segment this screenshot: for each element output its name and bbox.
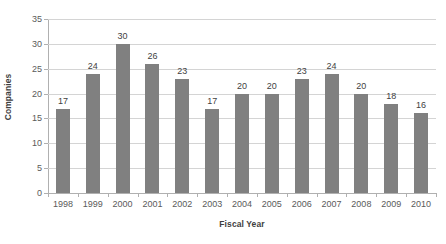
x-axis-tick-mark xyxy=(138,193,139,197)
bar xyxy=(175,79,189,193)
y-axis-tick-mark xyxy=(44,193,48,194)
bar-value-label: 24 xyxy=(327,62,337,71)
x-axis-tick-mark xyxy=(167,193,168,197)
x-axis-tick-mark xyxy=(257,193,258,197)
y-axis-tick-label: 25 xyxy=(32,64,42,73)
bar xyxy=(56,109,70,194)
plot-area: 17243026231720202324201816 xyxy=(48,19,436,193)
bar-group: 24 xyxy=(78,19,108,193)
bar-value-label: 26 xyxy=(147,52,157,61)
bar-chart: Companies 05101520253035 172430262317202… xyxy=(0,0,446,244)
bar-group: 24 xyxy=(317,19,347,193)
bar-group: 23 xyxy=(287,19,317,193)
bar-group: 18 xyxy=(376,19,406,193)
x-axis-tick-label: 1999 xyxy=(83,199,103,209)
x-axis-tick-mark xyxy=(48,193,49,197)
bar xyxy=(265,94,279,193)
y-axis-tick-label: 30 xyxy=(32,39,42,48)
bar-value-label: 17 xyxy=(58,97,68,106)
x-axis-tick-label: 2009 xyxy=(381,199,401,209)
bar xyxy=(86,74,100,193)
x-axis-tick-marks xyxy=(48,193,436,197)
x-axis-tick-mark xyxy=(108,193,109,197)
y-axis-tick-mark xyxy=(44,143,48,144)
bar-group: 30 xyxy=(108,19,138,193)
x-axis-tick-label: 2000 xyxy=(113,199,133,209)
x-axis-title: Fiscal Year xyxy=(48,219,436,229)
bar xyxy=(205,109,219,194)
bar xyxy=(354,94,368,193)
y-axis-tick-label: 10 xyxy=(32,139,42,148)
y-axis-tick-mark xyxy=(44,19,48,20)
x-axis-tick-mark xyxy=(436,193,437,197)
y-axis-tick-labels: 05101520253035 xyxy=(16,0,46,200)
y-axis-tick-label: 35 xyxy=(32,15,42,24)
x-axis-tick-label: 2006 xyxy=(292,199,312,209)
bar-value-label: 16 xyxy=(416,101,426,110)
x-axis-tick-label: 2010 xyxy=(411,199,431,209)
x-axis-tick-mark xyxy=(406,193,407,197)
x-axis-tick-mark xyxy=(317,193,318,197)
bar xyxy=(235,94,249,193)
x-axis-tick-mark xyxy=(376,193,377,197)
bar-value-label: 20 xyxy=(356,82,366,91)
bar-value-label: 20 xyxy=(267,82,277,91)
bar-group: 23 xyxy=(167,19,197,193)
y-axis-tick-label: 5 xyxy=(37,164,42,173)
y-axis-tick-mark xyxy=(44,69,48,70)
y-axis-title: Companies xyxy=(0,0,16,193)
x-axis-tick-labels: 1998199920002001200220032004200520062007… xyxy=(48,199,436,215)
bar-value-label: 17 xyxy=(207,97,217,106)
y-axis-title-label: Companies xyxy=(3,73,13,120)
x-axis-tick-label: 2002 xyxy=(172,199,192,209)
bar-value-label: 23 xyxy=(297,67,307,76)
x-axis-tick-mark xyxy=(78,193,79,197)
y-axis-tick-mark xyxy=(44,118,48,119)
bar-value-label: 23 xyxy=(177,67,187,76)
bar xyxy=(145,64,159,193)
y-axis-tick-mark xyxy=(44,44,48,45)
x-axis-tick-label: 2003 xyxy=(202,199,222,209)
y-axis-tick-mark xyxy=(44,94,48,95)
bar-group: 20 xyxy=(257,19,287,193)
x-axis-tick-mark xyxy=(227,193,228,197)
bars-layer: 17243026231720202324201816 xyxy=(48,19,436,193)
x-axis-tick-label: 2007 xyxy=(322,199,342,209)
x-axis-tick-label: 2004 xyxy=(232,199,252,209)
bar-value-label: 24 xyxy=(88,62,98,71)
x-axis-tick-label: 1998 xyxy=(53,199,73,209)
y-axis-tick-mark xyxy=(44,168,48,169)
x-axis-tick-mark xyxy=(287,193,288,197)
x-axis-tick-label: 2001 xyxy=(142,199,162,209)
x-axis-tick-mark xyxy=(197,193,198,197)
bar-group: 17 xyxy=(197,19,227,193)
bar-value-label: 18 xyxy=(386,92,396,101)
bar-group: 20 xyxy=(346,19,376,193)
bar-value-label: 20 xyxy=(237,82,247,91)
x-axis-tick-mark xyxy=(346,193,347,197)
bar xyxy=(414,113,428,193)
bar-group: 26 xyxy=(138,19,168,193)
x-axis-tick-label: 2008 xyxy=(351,199,371,209)
bar-group: 16 xyxy=(406,19,436,193)
x-axis-tick-label: 2005 xyxy=(262,199,282,209)
bar-group: 20 xyxy=(227,19,257,193)
bar xyxy=(116,44,130,193)
y-axis-tick-label: 15 xyxy=(32,114,42,123)
bar-value-label: 30 xyxy=(118,32,128,41)
y-axis-tick-label: 0 xyxy=(37,189,42,198)
bar-group: 17 xyxy=(48,19,78,193)
bar xyxy=(384,104,398,193)
bar xyxy=(325,74,339,193)
bar xyxy=(295,79,309,193)
y-axis-tick-label: 20 xyxy=(32,89,42,98)
